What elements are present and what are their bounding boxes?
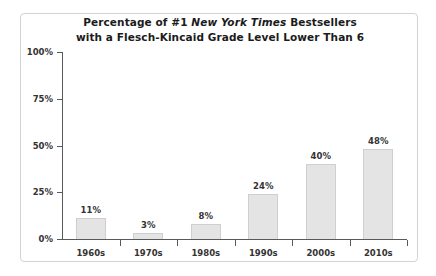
bar-1980s[interactable] <box>191 224 221 239</box>
x-axis-label-1960s: 1960s <box>61 248 121 258</box>
y-axis-label: 50% <box>33 141 53 151</box>
bar-value-label: 8% <box>176 211 236 221</box>
bar-value-label: 48% <box>348 136 408 146</box>
bar-value-label: 11% <box>61 205 121 215</box>
chart-title-italic-source: New York Times <box>191 16 286 28</box>
y-axis-tick <box>57 239 62 240</box>
bar-2010s[interactable] <box>363 149 393 239</box>
y-axis-tick <box>57 192 62 193</box>
bar-value-label: 24% <box>233 181 293 191</box>
chart-title-prefix: Percentage of #1 <box>83 16 191 28</box>
bar-2000s[interactable] <box>306 164 336 239</box>
chart-title: Percentage of #1 New York Times Bestsell… <box>21 15 419 44</box>
plot-area: 0%25%50%75%100% 1960s1970s1980s1990s2000… <box>62 52 407 239</box>
x-axis-label-1970s: 1970s <box>118 248 178 258</box>
x-axis-label-2010s: 2010s <box>348 248 408 258</box>
x-axis-tick <box>292 240 293 246</box>
x-axis-label-2000s: 2000s <box>291 248 351 258</box>
x-axis-tick <box>235 240 236 246</box>
chart-title-line-2: with a Flesch-Kincaid Grade Level Lower … <box>21 30 419 45</box>
bar-1970s[interactable] <box>133 233 163 239</box>
x-axis-tick <box>350 240 351 246</box>
y-axis-tick <box>57 52 62 53</box>
y-axis-tick <box>57 146 62 147</box>
x-axis-tick <box>120 240 121 246</box>
x-axis-label-1980s: 1980s <box>176 248 236 258</box>
y-axis-label: 100% <box>27 47 53 57</box>
bar-value-label: 40% <box>291 151 351 161</box>
bar-1960s[interactable] <box>76 218 106 239</box>
chart-title-suffix: Bestsellers <box>286 16 356 28</box>
y-axis-label: 75% <box>33 94 53 104</box>
chart-title-line-1: Percentage of #1 New York Times Bestsell… <box>21 15 419 30</box>
x-axis-tick <box>407 240 408 246</box>
y-axis-tick <box>57 99 62 100</box>
bar-value-label: 3% <box>118 220 178 230</box>
chart-frame: Percentage of #1 New York Times Bestsell… <box>20 13 418 262</box>
bar-1990s[interactable] <box>248 194 278 239</box>
x-axis-tick <box>177 240 178 246</box>
y-axis-label: 25% <box>33 187 53 197</box>
x-axis-label-1990s: 1990s <box>233 248 293 258</box>
y-axis-label: 0% <box>39 234 53 244</box>
